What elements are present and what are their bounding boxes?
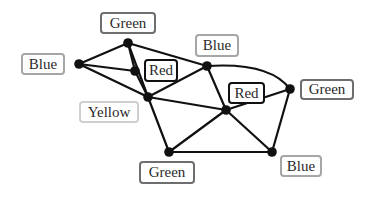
- graph-node-e: [202, 61, 212, 71]
- edge-a-b: [79, 43, 128, 64]
- edge-g-i: [272, 89, 290, 152]
- graph-node-a: [74, 59, 84, 69]
- edge-f-h: [169, 110, 226, 152]
- color-label-blue-node-e: Blue: [195, 34, 239, 57]
- graph-node-i: [267, 147, 277, 157]
- graph-node-h: [164, 147, 174, 157]
- color-label-blue-node-a: Blue: [21, 53, 65, 75]
- edge-d-f: [148, 97, 226, 110]
- edge-f-i: [226, 110, 272, 152]
- color-label-green-node-g: Green: [300, 79, 354, 100]
- graph-node-b: [123, 38, 133, 48]
- color-label-green-node-h: Green: [139, 161, 195, 184]
- color-label-green-node-b: Green: [100, 12, 156, 34]
- color-label-red-node-c: Red: [144, 59, 178, 82]
- graph-node-c: [130, 66, 140, 76]
- edge-d-h: [148, 97, 169, 152]
- graph-node-d: [143, 92, 153, 102]
- graph-node-f: [221, 105, 231, 115]
- edge-e-f: [207, 66, 226, 110]
- color-label-yellow-node-d: Yellow: [79, 101, 139, 123]
- color-label-red-node-f: Red: [228, 82, 265, 104]
- color-label-blue-node-i: Blue: [280, 155, 322, 177]
- graph-node-g: [285, 84, 295, 94]
